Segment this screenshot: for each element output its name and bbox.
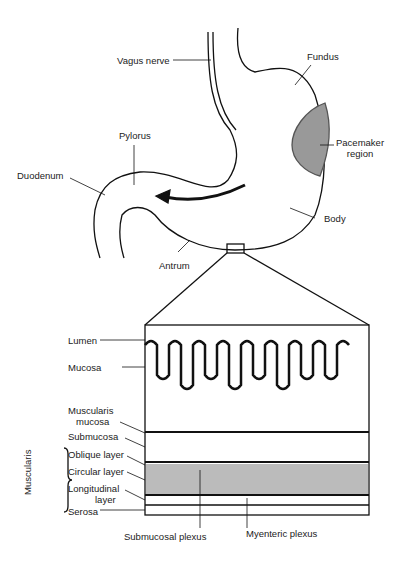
label-vagus-nerve: Vagus nerve <box>117 55 170 66</box>
label-pylorus: Pylorus <box>119 130 151 141</box>
label-longitudinal-layer: Longitudinallayer <box>68 483 119 505</box>
label-oblique-layer: Oblique layer <box>68 449 124 460</box>
label-muscularis-mucosa: Muscularismucosa <box>68 405 113 427</box>
label-serosa: Serosa <box>68 506 98 517</box>
label-duodenum: Duodenum <box>17 170 63 181</box>
label-submucosa: Submucosa <box>68 431 118 442</box>
label-mucosa: Mucosa <box>68 362 101 373</box>
label-pacemaker-region: Pacemakerregion <box>336 137 384 159</box>
label-antrum: Antrum <box>159 260 190 271</box>
label-body: Body <box>324 213 346 224</box>
label-lumen: Lumen <box>68 335 97 346</box>
label-fundus: Fundus <box>307 51 339 62</box>
label-circular-layer: Circular layer <box>68 466 124 477</box>
label-muscularis-group: Muscularis <box>22 450 33 495</box>
stomach-diagram <box>0 0 396 568</box>
label-submucosal-plexus: Submucosal plexus <box>124 531 206 542</box>
label-myenteric-plexus: Myenteric plexus <box>246 528 317 539</box>
